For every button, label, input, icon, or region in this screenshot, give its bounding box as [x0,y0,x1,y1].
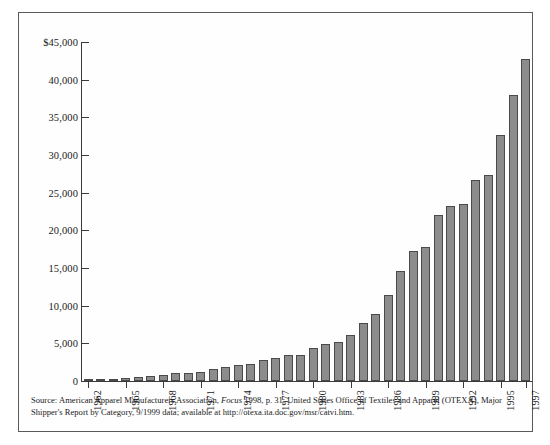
bar [484,175,493,381]
source-note: Source: American Apparel Manufacturers A… [31,395,522,418]
x-axis-tick [501,382,502,388]
x-axis-tick [313,382,314,388]
bar [121,378,130,381]
source-label: Source: [31,395,57,405]
y-axis-tick-label: 0 [73,376,78,387]
x-axis-tick [238,382,239,388]
bar [409,251,418,381]
y-axis-tick-label: 20,000 [49,225,78,236]
bar [309,348,318,381]
bar [421,247,430,381]
bar [96,379,105,381]
x-axis-tick [163,382,164,388]
bar [246,364,255,381]
y-axis-tick-label: 35,000 [49,112,78,123]
source-text-b: 1998, p. 31; United States Office of Tex… [242,395,502,405]
x-axis-tick [426,382,427,388]
bar [259,360,268,381]
source-line-2: Shipper's Report by Category, 9/1999 dat… [31,407,354,417]
y-axis-tick-label: $45,000 [43,37,78,48]
bar [521,59,530,381]
bar [146,376,155,381]
bar [496,135,505,381]
y-axis-tick-label: 40,000 [49,74,78,85]
bar [84,379,93,381]
y-axis-tick-label: 5,000 [54,338,78,349]
x-axis-tick [276,382,277,388]
x-axis-tick [351,382,352,388]
bar [184,373,193,381]
bar [134,377,143,381]
y-axis-tick-label: 15,000 [49,263,78,274]
x-axis-tick [526,382,527,388]
x-axis-tick [88,382,89,388]
bar [446,206,455,381]
bar [284,355,293,381]
y-axis-tick-label: 30,000 [49,150,78,161]
bar [196,372,205,381]
source-publication-title: Focus [221,395,242,405]
bar [334,342,343,381]
bar-series [82,42,532,381]
figure-frame: 05,00010,00015,00020,00025,00030,00035,0… [18,12,533,432]
y-axis-labels: 05,00010,00015,00020,00025,00030,00035,0… [19,13,78,433]
bar [159,375,168,381]
bar [371,314,380,381]
bar [396,271,405,381]
bar [321,344,330,381]
x-axis-tick [126,382,127,388]
bar [434,215,443,381]
x-axis-tick [463,382,464,388]
bar [296,355,305,381]
bar [459,204,468,381]
bar [221,367,230,381]
bar [359,323,368,381]
source-text-a: American Apparel Manufacturers Associati… [57,395,221,405]
y-axis-tick-label: 10,000 [49,300,78,311]
x-axis-tick [388,382,389,388]
bar [171,373,180,381]
bar [234,365,243,381]
bar [346,335,355,381]
bar [384,295,393,381]
bar [209,369,218,381]
x-axis-line [81,381,532,382]
bar [271,358,280,381]
x-axis-tick-label: 1997 [530,390,541,411]
bar [471,180,480,381]
y-axis-tick-label: 25,000 [49,187,78,198]
bar [509,95,518,381]
x-axis-tick [201,382,202,388]
bar [109,379,118,381]
